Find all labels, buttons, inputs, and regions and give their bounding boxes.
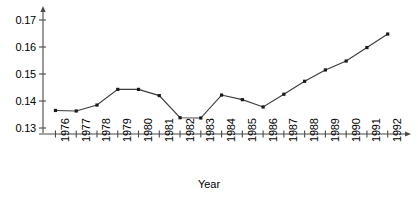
y-tick-label: 0.15 bbox=[2, 69, 36, 80]
y-tick-label: 0.14 bbox=[2, 96, 36, 107]
data-point-marker bbox=[137, 88, 140, 91]
data-point-marker bbox=[158, 94, 161, 97]
data-point-marker bbox=[95, 103, 98, 106]
data-point-marker bbox=[324, 68, 327, 71]
y-tick-label: 0.17 bbox=[2, 15, 36, 26]
x-tick-label: 1985 bbox=[247, 118, 258, 142]
x-axis-title: Year bbox=[0, 178, 418, 190]
data-point-marker bbox=[345, 59, 348, 62]
data-point-marker bbox=[262, 105, 265, 108]
x-tick-label: 1980 bbox=[143, 118, 154, 142]
x-tick-label: 1988 bbox=[309, 118, 320, 142]
x-tick-label: 1981 bbox=[164, 118, 175, 142]
y-tick-label: 0.13 bbox=[2, 123, 36, 134]
data-point-marker bbox=[365, 46, 368, 49]
data-point-marker bbox=[282, 93, 285, 96]
data-point-marker bbox=[199, 116, 202, 119]
x-tick-label: 1987 bbox=[288, 118, 299, 142]
x-tick-label: 1977 bbox=[81, 118, 92, 142]
data-point-marker bbox=[241, 98, 244, 101]
x-tick-label: 1991 bbox=[371, 118, 382, 142]
x-tick-label: 1976 bbox=[60, 118, 71, 142]
data-line bbox=[55, 34, 387, 118]
data-point-marker bbox=[386, 32, 389, 35]
data-point-marker bbox=[75, 109, 78, 112]
x-tick-label: 1992 bbox=[392, 118, 403, 142]
x-tick-label: 1979 bbox=[122, 118, 133, 142]
x-tick-label: 1978 bbox=[101, 118, 112, 142]
data-point-marker bbox=[303, 80, 306, 83]
chart-canvas bbox=[0, 0, 418, 198]
x-tick-label: 1983 bbox=[205, 118, 216, 142]
y-axis-arrow bbox=[40, 6, 45, 12]
x-tick-label: 1982 bbox=[185, 118, 196, 142]
x-tick-label: 1990 bbox=[351, 118, 362, 142]
x-tick-label: 1989 bbox=[330, 118, 341, 142]
data-point-marker bbox=[178, 116, 181, 119]
y-tick-label: 0.16 bbox=[2, 42, 36, 53]
x-axis-arrow bbox=[405, 131, 411, 136]
x-tick-label: 1984 bbox=[226, 118, 237, 142]
data-point-marker bbox=[54, 109, 57, 112]
line-chart: 0.130.140.150.160.17 1976197719781979198… bbox=[0, 0, 418, 198]
x-tick-label: 1986 bbox=[268, 118, 279, 142]
data-point-marker bbox=[116, 88, 119, 91]
data-point-marker bbox=[220, 93, 223, 96]
